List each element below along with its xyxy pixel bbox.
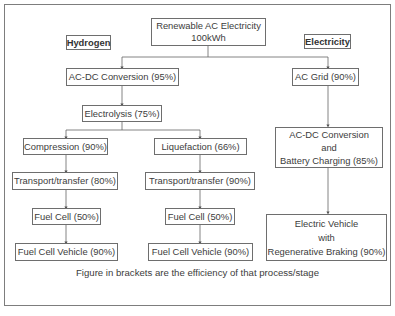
fcv-liquid-text: Fuel Cell Vehicle (90%) — [152, 246, 249, 258]
ac-grid-box: AC Grid (90%) — [292, 68, 359, 86]
fuel-cell-compressed-text: Fuel Cell (50%) — [34, 211, 99, 223]
source-line1: Renewable AC Electricity — [156, 20, 261, 32]
caption: Figure in brackets are the efficiency of… — [0, 267, 395, 278]
compression-text: Compression (90%) — [24, 141, 107, 153]
ac-grid-text: AC Grid (90%) — [295, 71, 356, 83]
liquefaction-box: Liquefaction (66%) — [154, 138, 247, 155]
transport-liquid-box: Transport/transfer (90%) — [145, 172, 255, 190]
fuel-cell-liquid-text: Fuel Cell (50%) — [168, 211, 233, 223]
fcv-compressed-text: Fuel Cell Vehicle (90%) — [18, 246, 115, 258]
compression-box: Compression (90%) — [23, 138, 108, 155]
ev-line1: Electric Vehicle — [295, 217, 359, 231]
acdc-conversion-text: AC-DC Conversion (95%) — [69, 71, 176, 83]
transport-compressed-box: Transport/transfer (80%) — [12, 172, 118, 190]
hydrogen-label: Hydrogen — [66, 35, 111, 50]
electricity-label: Electricity — [304, 34, 351, 49]
charging-line3: Battery Charging (85%) — [280, 154, 378, 167]
electrolysis-box: Electrolysis (75%) — [82, 105, 162, 122]
electricity-label-text: Electricity — [305, 36, 350, 48]
ev-line2: with — [318, 231, 335, 245]
hydrogen-label-text: Hydrogen — [67, 37, 111, 49]
electrolysis-text: Electrolysis (75%) — [84, 108, 159, 120]
source-box: Renewable AC Electricity 100kWh — [151, 18, 266, 46]
charging-line1: AC-DC Conversion — [289, 128, 369, 141]
electric-vehicle-box: Electric Vehicle with Regenerative Braki… — [266, 214, 387, 261]
transport-liquid-text: Transport/transfer (90%) — [149, 175, 251, 187]
battery-charging-box: AC-DC Conversion and Battery Charging (8… — [275, 127, 383, 168]
acdc-conversion-box: AC-DC Conversion (95%) — [66, 68, 179, 86]
fcv-compressed-box: Fuel Cell Vehicle (90%) — [15, 243, 118, 261]
liquefaction-text: Liquefaction (66%) — [161, 141, 239, 153]
transport-compressed-text: Transport/transfer (80%) — [14, 175, 116, 187]
fuel-cell-liquid-box: Fuel Cell (50%) — [165, 208, 235, 225]
fuel-cell-compressed-box: Fuel Cell (50%) — [32, 208, 101, 225]
source-line2: 100kWh — [191, 32, 225, 44]
fcv-liquid-box: Fuel Cell Vehicle (90%) — [148, 243, 253, 261]
charging-line2: and — [321, 141, 337, 154]
ev-line3: Regenerative Braking (90%) — [268, 245, 386, 259]
